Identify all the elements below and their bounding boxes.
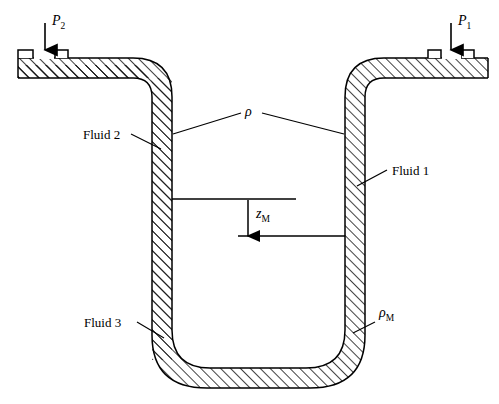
density-manometer-label: ρM [379, 306, 394, 323]
right-port-mouth [442, 49, 461, 59]
fluid-right-label: Fluid 1 [392, 164, 429, 177]
manometer-drawing [0, 0, 499, 404]
density-label: ρ [245, 105, 252, 119]
left-inlet-port-right [55, 50, 68, 58]
rho-leader-right [262, 113, 344, 134]
tube-wall-outline-outer [18, 78, 488, 388]
height-label: zM [256, 207, 270, 224]
fluid-left-label: Fluid 2 [83, 128, 120, 141]
left-inlet-port [18, 50, 33, 58]
tube-wall-solid [18, 58, 488, 388]
pressure-left-label: P2 [52, 14, 65, 31]
left-port-mouth [34, 49, 54, 59]
fluid-bottom-label: Fluid 3 [84, 316, 121, 329]
manometer-figure: P2 P1 ρ Fluid 2 Fluid 1 Fluid 3 ρM zM [0, 0, 499, 404]
rho-leader-left [173, 113, 241, 134]
pressure-right-label: P1 [458, 14, 471, 31]
right-inlet-port-right [461, 50, 474, 58]
right-inlet-port-left [428, 50, 441, 58]
